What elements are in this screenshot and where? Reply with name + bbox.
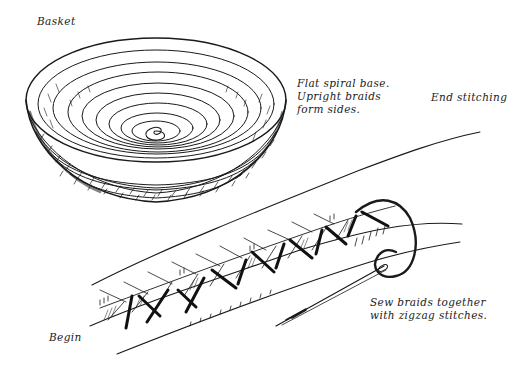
- spiral-base-note-line-1: Flat spiral base.: [297, 77, 390, 90]
- spiral-base-note-line-2: Upright braids: [297, 90, 390, 103]
- sew-braids-note-line-1: Sew braids together: [370, 296, 487, 309]
- basket-bowl-icon: [26, 38, 286, 202]
- spiral-base-icon: [38, 50, 274, 158]
- illustration-canvas: Basket Flat spiral base. Upright braids …: [0, 0, 523, 368]
- zigzag-stitches-icon: [126, 212, 388, 328]
- thread-icon: [356, 200, 416, 277]
- sew-braids-note-line-2: with zigzag stitches.: [370, 309, 487, 322]
- sew-braids-note: Sew braids together with zigzag stitches…: [370, 296, 487, 322]
- begin-label: Begin: [49, 331, 82, 344]
- spiral-base-note-line-3: form sides.: [297, 103, 390, 116]
- spiral-base-note: Flat spiral base. Upright braids form si…: [297, 77, 390, 116]
- end-stitching-label: End stitching: [431, 91, 507, 104]
- basket-label: Basket: [37, 15, 76, 28]
